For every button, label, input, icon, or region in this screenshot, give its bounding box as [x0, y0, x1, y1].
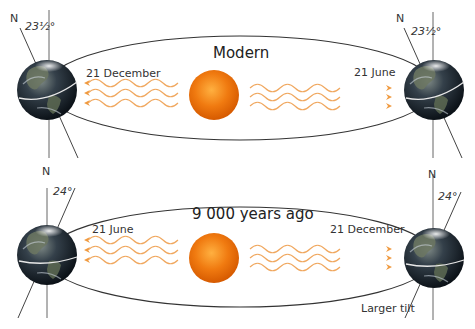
tilt-angle-right: 23½°	[411, 25, 441, 38]
north-label-right: N	[396, 12, 404, 25]
north-label-right: N	[428, 168, 436, 181]
sun-rays-right	[250, 84, 392, 110]
larger-tilt-note: Larger tilt	[361, 302, 415, 315]
sun-rays-left	[84, 236, 178, 264]
panel-title-modern: Modern	[213, 44, 269, 62]
earth-globe-right	[404, 228, 464, 288]
date-label-right: 21 June	[354, 66, 395, 79]
sun-rays-right	[250, 245, 392, 271]
date-label-left: 21 December	[86, 67, 161, 80]
earth-globe-left	[17, 60, 77, 120]
north-label-left: N	[10, 12, 18, 25]
panel-9000-years-ago	[17, 174, 464, 320]
date-label-right: 21 December	[330, 223, 405, 236]
earth-globe-right	[404, 60, 464, 120]
panel-modern	[17, 10, 464, 158]
tilt-angle-left: 24°	[53, 185, 73, 198]
tilt-angle-right: 24°	[438, 190, 458, 203]
earth-globe-left	[17, 225, 77, 285]
date-label-left: 21 June	[92, 223, 133, 236]
sun	[189, 233, 239, 283]
north-label-left: N	[42, 165, 50, 178]
panel-title-9000-years-ago: 9 000 years ago	[192, 205, 314, 223]
sun	[189, 70, 239, 120]
tilt-angle-left: 23½°	[25, 20, 55, 33]
sun-rays-left	[84, 79, 178, 107]
